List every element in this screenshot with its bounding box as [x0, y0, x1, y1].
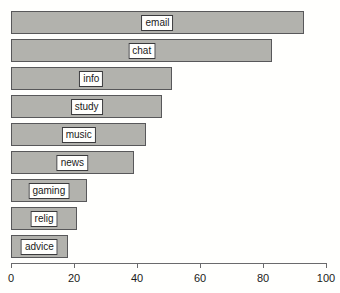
x-axis-tick: [200, 263, 201, 268]
x-axis-tick: [326, 263, 327, 268]
x-axis-tick-label: 0: [8, 271, 14, 285]
x-axis-tick: [11, 263, 12, 268]
bar-row[interactable]: gaming: [11, 179, 87, 202]
bar-row[interactable]: relig: [11, 207, 77, 230]
bar-label: relig: [31, 211, 58, 227]
x-axis-tick-label: 80: [257, 271, 269, 285]
bar-label: news: [57, 155, 88, 171]
x-axis-tick: [263, 263, 264, 268]
x-axis-tick: [74, 263, 75, 268]
bar-row[interactable]: study: [11, 95, 162, 118]
x-axis-tick-label: 100: [317, 271, 335, 285]
bar-label: chat: [128, 43, 155, 59]
bar-row[interactable]: advice: [11, 235, 68, 258]
bar-row[interactable]: music: [11, 123, 146, 146]
bar-row[interactable]: info: [11, 67, 172, 90]
bar-label: study: [71, 99, 103, 115]
x-axis-tick: [137, 263, 138, 268]
bar-row[interactable]: news: [11, 151, 134, 174]
bar-label: gaming: [28, 183, 69, 199]
bar-label: info: [79, 71, 103, 87]
bar-chart: emailchatinfostudymusicnewsgamingreligad…: [0, 0, 340, 293]
bar-label: advice: [21, 239, 58, 255]
x-axis-tick-label: 60: [194, 271, 206, 285]
x-axis-tick-label: 40: [131, 271, 143, 285]
x-axis-line: [11, 263, 326, 264]
bar-row[interactable]: email: [11, 11, 304, 34]
plot-area: emailchatinfostudymusicnewsgamingreligad…: [0, 0, 340, 262]
bar-label: music: [62, 127, 96, 143]
bar-row[interactable]: chat: [11, 39, 272, 62]
bar-label: email: [142, 15, 174, 31]
x-axis-tick-label: 20: [68, 271, 80, 285]
